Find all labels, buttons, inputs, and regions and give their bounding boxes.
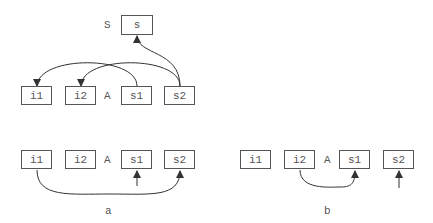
a-box-s1: s1 — [121, 150, 152, 169]
arrows-layer — [0, 0, 433, 223]
top-box-s2: s2 — [164, 86, 195, 105]
a-box-s2: s2 — [164, 150, 195, 169]
arrow-s2-to-s — [137, 36, 180, 86]
caption-b: b — [324, 205, 331, 217]
top-array-label: A — [104, 90, 111, 102]
b-box-s2: s2 — [383, 150, 414, 169]
top-box-s1: s1 — [121, 86, 152, 105]
a-array-label: A — [104, 154, 111, 166]
top-box-i1: i1 — [21, 86, 52, 105]
struct-label: S — [104, 19, 111, 31]
a-box-i2: i2 — [65, 150, 96, 169]
b-box-i1: i1 — [240, 150, 271, 169]
b-box-i2: i2 — [284, 150, 315, 169]
struct-box-s: s — [121, 15, 153, 35]
arrow-i1-to-s2 — [37, 170, 180, 194]
b-box-s1: s1 — [339, 150, 370, 169]
arrow-i2-to-s1-b — [300, 170, 355, 187]
arrow-s2-to-i2 — [81, 63, 180, 86]
caption-a: a — [105, 205, 112, 217]
b-array-label: A — [324, 154, 331, 166]
top-box-i2: i2 — [65, 86, 96, 105]
a-box-i1: i1 — [21, 150, 52, 169]
